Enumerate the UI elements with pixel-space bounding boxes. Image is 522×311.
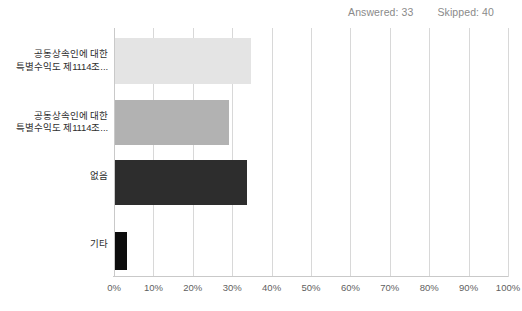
x-axis-tick-labels: 0%10%20%30%40%50%60%70%80%90%100% xyxy=(114,282,508,298)
x-axis-line xyxy=(113,276,508,277)
plot-area xyxy=(114,28,508,277)
bar-fill xyxy=(115,100,229,145)
bar-fill xyxy=(115,232,127,270)
category-label: 공동상속인에 대한 특별수익도 제1114조... xyxy=(0,110,108,135)
x-tick-label: 50% xyxy=(301,282,320,293)
bar[interactable] xyxy=(115,100,229,145)
x-tick-label: 40% xyxy=(262,282,281,293)
category-label: 없음 xyxy=(0,170,108,183)
chart-header: Answered: 33 Skipped: 40 xyxy=(0,4,508,20)
category-axis-labels: 공동상속인에 대한 특별수익도 제1114조...공동상속인에 대한 특별수익도… xyxy=(0,28,108,277)
bar-fill xyxy=(115,160,247,205)
x-tick-label: 60% xyxy=(341,282,360,293)
bar[interactable] xyxy=(115,38,251,84)
bar-series xyxy=(114,28,508,277)
bar[interactable] xyxy=(115,160,247,205)
y-axis-line xyxy=(114,28,115,277)
bar[interactable] xyxy=(115,232,127,270)
category-label: 기타 xyxy=(0,238,108,251)
x-tick-label: 80% xyxy=(420,282,439,293)
x-tick-label: 100% xyxy=(496,282,520,293)
x-tick-label: 20% xyxy=(183,282,202,293)
bar-fill xyxy=(115,38,251,84)
gridline-100 xyxy=(508,28,509,277)
x-tick-label: 0% xyxy=(107,282,121,293)
skipped-count: Skipped: 40 xyxy=(437,6,494,18)
category-label: 공동상속인에 대한 특별수익도 제1114조... xyxy=(0,48,108,73)
x-tick-label: 30% xyxy=(223,282,242,293)
x-tick-label: 90% xyxy=(459,282,478,293)
x-tick-label: 70% xyxy=(380,282,399,293)
answered-count: Answered: 33 xyxy=(348,6,413,18)
survey-bar-chart: Answered: 33 Skipped: 40 공동상속인에 대한 특별수익도… xyxy=(0,0,522,311)
x-tick-label: 10% xyxy=(144,282,163,293)
